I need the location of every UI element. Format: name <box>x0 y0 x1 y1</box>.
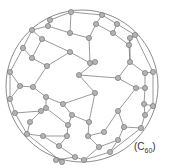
carbon-atom <box>60 101 65 106</box>
carbon-atom <box>142 112 147 117</box>
bond <box>99 140 118 147</box>
carbon-atom <box>27 119 32 124</box>
molecule-label: (C60) <box>134 141 156 154</box>
bond <box>48 26 70 33</box>
carbon-atom <box>85 133 90 138</box>
carbon-atom <box>92 90 97 95</box>
carbon-atom <box>121 124 126 129</box>
bond <box>33 66 47 87</box>
bond <box>47 52 70 66</box>
carbon-atom <box>56 143 61 148</box>
bond <box>104 111 118 132</box>
bond <box>89 93 95 122</box>
carbon-atom <box>29 27 34 32</box>
bond <box>32 39 42 58</box>
carbon-atom <box>86 119 91 124</box>
bond <box>118 62 130 78</box>
carbon-atom <box>138 125 143 130</box>
carbon-atom <box>7 69 12 74</box>
carbon-atom <box>93 21 98 26</box>
carbon-atom <box>141 101 146 106</box>
carbon-atom <box>150 103 155 108</box>
carbon-atom <box>133 85 138 90</box>
bond <box>89 38 90 63</box>
carbon-atom <box>99 12 104 17</box>
bond <box>79 75 95 93</box>
bond <box>63 93 95 104</box>
bond <box>46 108 68 125</box>
bond <box>79 75 118 78</box>
carbon-atom <box>115 108 120 113</box>
carbon-atom <box>30 84 35 89</box>
carbon-atom <box>29 55 34 60</box>
carbon-atom <box>96 144 101 149</box>
carbon-atom <box>47 17 52 22</box>
bond <box>71 12 102 15</box>
carbon-atom <box>81 157 86 162</box>
carbon-atom <box>92 59 97 64</box>
bond <box>42 39 70 52</box>
carbon-atom <box>107 149 112 154</box>
carbon-atom <box>132 32 137 37</box>
bond <box>84 152 110 160</box>
carbon-atom <box>45 23 50 28</box>
bond <box>15 111 41 113</box>
carbon-atom <box>67 49 72 54</box>
carbon-atom <box>67 30 72 35</box>
carbon-atom <box>110 30 115 35</box>
carbon-atom <box>115 137 120 142</box>
carbon-atom <box>142 70 147 75</box>
carbon-atom <box>150 69 155 74</box>
carbon-atom <box>69 112 74 117</box>
bond <box>59 146 75 157</box>
carbon-atom <box>17 83 22 88</box>
carbon-atom <box>114 21 119 26</box>
carbon-atom <box>40 133 45 138</box>
carbon-atom <box>115 75 120 80</box>
carbon-atom <box>7 96 12 101</box>
carbon-atom <box>38 108 43 113</box>
carbon-atom <box>39 36 44 41</box>
label-close: ) <box>152 141 155 152</box>
bond <box>118 78 136 88</box>
carbon-atom <box>53 157 58 162</box>
bond <box>118 88 136 111</box>
carbon-atom <box>59 159 64 164</box>
carbon-atom <box>20 45 25 50</box>
carbon-atom <box>68 9 73 14</box>
label-open: (C <box>134 141 145 152</box>
carbon-atom <box>126 42 131 47</box>
bond <box>70 12 71 33</box>
carbon-atom <box>24 131 29 136</box>
carbon-atom <box>76 72 81 77</box>
carbon-atom <box>87 60 92 65</box>
carbon-atom <box>43 94 48 99</box>
carbon-atom <box>72 154 77 159</box>
bond <box>113 33 129 45</box>
carbon-atom <box>127 59 132 64</box>
carbon-atom <box>86 35 91 40</box>
bond <box>70 52 90 63</box>
carbon-atom <box>12 110 17 115</box>
carbon-atom <box>44 63 49 68</box>
carbon-atom <box>43 105 48 110</box>
carbon-atom <box>64 133 69 138</box>
bond <box>10 48 23 72</box>
carbon-atom <box>101 129 106 134</box>
carbon-atom <box>127 35 132 40</box>
carbon-atom <box>142 85 147 90</box>
bond <box>70 33 89 38</box>
carbon-atom <box>65 122 70 127</box>
